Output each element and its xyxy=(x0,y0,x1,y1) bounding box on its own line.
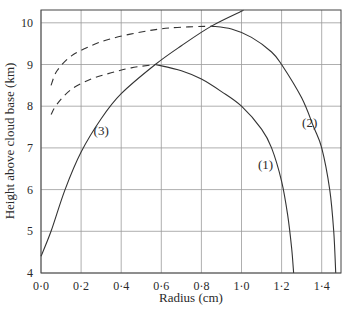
curve-label: (2) xyxy=(302,115,317,130)
y-tick-label: 6 xyxy=(27,183,33,197)
y-tick-label: 5 xyxy=(27,224,33,238)
x-tick-label: 1·4 xyxy=(314,279,330,293)
x-tick-label: 1·2 xyxy=(274,279,290,293)
grid-lines xyxy=(41,10,341,273)
curve-2-dashed xyxy=(51,26,211,85)
y-tick-label: 4 xyxy=(27,266,33,280)
curve-labels: (1)(2)(3) xyxy=(94,115,318,172)
curve-2 xyxy=(211,26,335,273)
y-tick-label: 8 xyxy=(27,99,33,113)
y-tick-label: 10 xyxy=(21,16,33,30)
x-tick-label: 0·2 xyxy=(73,279,89,293)
y-tick-label: 7 xyxy=(27,141,33,155)
curve-3 xyxy=(41,10,244,256)
x-tick-label: 0·0 xyxy=(33,279,49,293)
x-tick-label: 1·0 xyxy=(234,279,250,293)
chart: 0·00·20·40·60·81·01·21·4 45678910 (1)(2)… xyxy=(0,0,349,309)
y-axis-label: Height above cloud base (km) xyxy=(2,63,17,220)
x-axis-label: Radius (cm) xyxy=(159,290,223,305)
x-tick-label: 0·4 xyxy=(113,279,129,293)
y-tick-label: 9 xyxy=(27,58,33,72)
curve-label: (1) xyxy=(258,157,273,172)
data-curves xyxy=(41,10,336,273)
y-axis-ticks: 45678910 xyxy=(21,16,33,280)
plot-frame xyxy=(41,10,341,273)
curve-1-dashed xyxy=(51,65,155,115)
curve-label: (3) xyxy=(94,123,109,138)
